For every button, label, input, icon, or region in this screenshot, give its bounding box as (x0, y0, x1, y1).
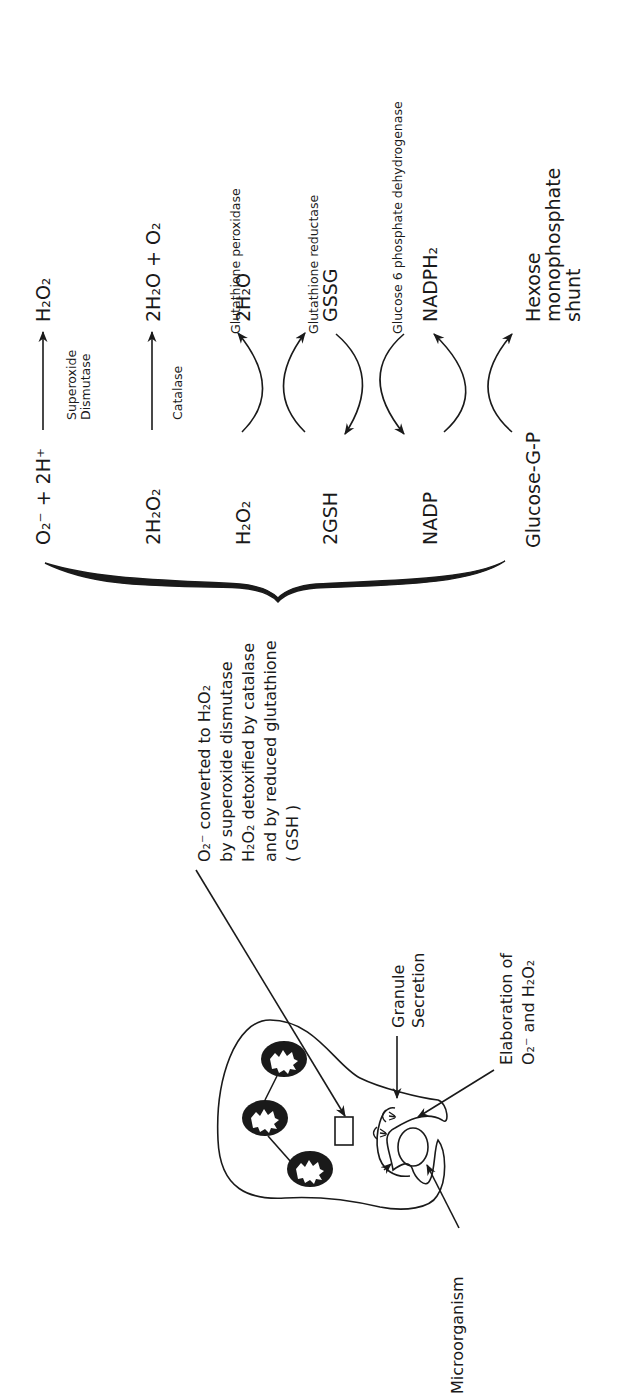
curved-arrow-icon (380, 334, 404, 434)
cycle2-left: 2GSH (319, 492, 341, 545)
microorganism-shape (398, 1128, 428, 1166)
label-o2-h2o2: O₂⁻ and H₂O₂ (519, 960, 538, 1065)
cycle1-left: H₂O₂ (232, 501, 254, 545)
label-granule: Granule (389, 965, 408, 1028)
cycle4-right-line3: shunt (562, 269, 584, 322)
explanation-line3: H₂O₂ detoxified by catalase (239, 643, 258, 862)
curly-brace (45, 561, 505, 602)
reaction-catalase: 2H₂O₂ 2H₂O + O₂ Catalase (142, 222, 185, 545)
explanation-text: O₂⁻ converted to H₂O₂ by superoxide dism… (195, 640, 302, 862)
microorganism-arrow-icon (427, 1165, 459, 1228)
enzyme-dismutase: Dismutase (78, 353, 93, 420)
enzyme-glutathione-peroxidase: Glutathione peroxidase (228, 188, 243, 334)
label-secretion: Secretion (409, 952, 428, 1028)
reactant-superoxide: O₂⁻ + 2H⁺ (32, 448, 54, 545)
explanation-line4: and by reduced glutathione (261, 640, 280, 862)
peroxisome-box (335, 1117, 353, 1145)
enzyme-g6pd: Glucose 6 phosphate dehydrogenase (390, 101, 405, 334)
curved-arrow-icon (238, 333, 263, 432)
reactant-2h2o2: 2H₂O₂ (142, 488, 164, 545)
enzyme-superoxide: Superoxide (64, 350, 79, 420)
curved-arrow-icon (284, 333, 306, 432)
cycle3-left: NADP (419, 492, 441, 545)
explanation-line2: by superoxide dismutase (217, 661, 236, 862)
product-h2o2: H₂O₂ (32, 278, 54, 322)
phagocyte-oxidant-diagram: O₂⁻ + 2H⁺ H₂O₂ Superoxide Dismutase 2H₂O… (0, 0, 628, 1399)
label-microorganism: Microorganism (448, 1276, 467, 1394)
enzyme-glutathione-reductase: Glutathione reductase (306, 194, 321, 334)
label-elaboration: Elaboration of (497, 953, 516, 1065)
curved-arrow-icon (336, 334, 362, 434)
explanation-line5: ( GSH ) (283, 805, 302, 862)
reaction-superoxide-dismutase: O₂⁻ + 2H⁺ H₂O₂ Superoxide Dismutase (32, 278, 93, 545)
elaboration-arrow-icon (418, 1070, 494, 1117)
cycle3-right: NADPH₂ (419, 247, 441, 322)
cycle4-left: Glucose-G-P (522, 432, 544, 548)
pointer-arrow-icon (196, 870, 345, 1116)
cycle4-right-line1: Hexose (522, 252, 544, 322)
cycle4-right-line2: monophosphate (542, 168, 564, 322)
enzyme-catalase: Catalase (170, 365, 185, 420)
cycle2-right: GSSG (319, 268, 341, 322)
explanation-line1: O₂⁻ converted to H₂O₂ (195, 685, 214, 862)
curved-arrow-icon (488, 334, 512, 432)
nucleus-lobes (242, 1041, 333, 1187)
product-water-oxygen: 2H₂O + O₂ (142, 222, 164, 322)
phagocyte-cell (218, 1020, 447, 1209)
curved-arrow-icon (434, 334, 466, 432)
glutathione-cycles: H₂O₂ 2H₂O Glutathione peroxidase 2GSH GS… (228, 101, 584, 548)
